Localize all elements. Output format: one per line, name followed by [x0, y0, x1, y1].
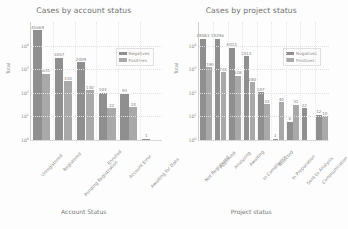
- bar-group: 140: [271, 22, 286, 140]
- bar-positives: 31: [293, 105, 299, 140]
- x-tick-cell: In Preparation: [285, 141, 300, 199]
- x-tick-cell: Rejected: [271, 141, 286, 199]
- legend-swatch-positives-icon: [286, 58, 294, 62]
- legend-swatch-negatives-icon: [286, 52, 294, 56]
- x-tick-cell: Pending Registration: [74, 141, 96, 199]
- gridline-vertical: [315, 22, 316, 140]
- legend-item-positives: Positives: [286, 58, 317, 63]
- bar-positives: 130: [86, 90, 94, 140]
- bar-positives: 10: [322, 116, 328, 140]
- bar-value-label: 24: [131, 102, 136, 107]
- bar-negatives: 22: [302, 108, 308, 140]
- bar-positives: 528: [235, 76, 241, 140]
- bar-positives: 310: [64, 81, 72, 140]
- page-title-project-status: Cases by project status: [168, 6, 336, 15]
- bar-value-label: 1: [274, 133, 277, 138]
- bar-value-label: 130: [86, 85, 94, 90]
- plot-area-account-status: 45669631305731020091301032293241 Negativ…: [30, 22, 162, 141]
- y-axis-tick: 101: [188, 113, 196, 120]
- bar-value-label: 3057: [54, 52, 64, 57]
- x-tick-cell: Unregistered: [30, 141, 52, 199]
- gridline-horizontal: [199, 46, 330, 47]
- gridline-vertical: [213, 22, 214, 140]
- legend-label-positives: Positives: [129, 58, 147, 63]
- bar-value-label: 12: [316, 109, 321, 114]
- x-tick-cell: Enrolled: [96, 141, 118, 199]
- gridline-vertical: [53, 22, 54, 140]
- y-axis-label-project-status: Total: [174, 63, 179, 74]
- x-tick-cell: Not Registered: [198, 141, 213, 199]
- bar-value-label: 2009: [76, 57, 86, 62]
- bar-value-label: 528: [234, 70, 242, 75]
- gridline-vertical: [257, 22, 258, 140]
- bar-group: 22: [300, 22, 315, 140]
- bar-group: 10322: [96, 22, 118, 140]
- bar-positives: 40: [279, 102, 285, 140]
- gridline-vertical: [96, 22, 97, 140]
- legend-item-positives: Positives: [119, 58, 150, 63]
- bar-group: 1: [140, 22, 162, 140]
- bar-positives: 735: [221, 72, 227, 140]
- x-tick-cell: Account Error: [118, 141, 140, 199]
- bar-group: 3513280: [242, 22, 257, 140]
- x-tick-cell: In Compliance: [256, 141, 271, 199]
- gridline-vertical: [118, 22, 119, 140]
- y-axis-tick: 100: [188, 137, 196, 144]
- bar-value-label: 280: [248, 77, 256, 82]
- x-tick-cell: Approved: [212, 141, 227, 199]
- x-axis-label-project-status: Project status: [168, 208, 336, 215]
- y-axis-tick: 103: [21, 66, 29, 73]
- bar-group: 9324: [118, 22, 140, 140]
- bar-value-label: 22: [302, 103, 307, 108]
- legend-item-negatives: Negatives: [119, 51, 150, 56]
- bar-value-label: 22: [109, 103, 114, 108]
- bar-value-label: 103: [99, 87, 107, 92]
- y-axis-tick: 102: [188, 90, 196, 97]
- page-title-account-status: Cases by account status: [0, 6, 168, 15]
- legend-label-positives: Positives: [296, 58, 314, 63]
- gridline-vertical: [300, 22, 301, 140]
- y-axis-tick: 103: [188, 66, 196, 73]
- chart-panel-account-status: Cases by account status Total 4566963130…: [0, 0, 168, 229]
- x-axis-label-account-status: Account Status: [0, 208, 168, 215]
- bar-positives: 33: [264, 104, 270, 140]
- gridline-horizontal: [199, 93, 330, 94]
- bar-groups: 1908311901929673580135283513280107331406…: [199, 22, 330, 140]
- bar-value-label: 107: [257, 87, 265, 92]
- bar-group: 631: [286, 22, 301, 140]
- bar-positives: 1190: [206, 67, 212, 140]
- bar-group: 19296735: [213, 22, 228, 140]
- y-axis-tick: 104: [21, 42, 29, 49]
- y-axis-tick: 102: [21, 90, 29, 97]
- bar-value-label: 33: [264, 99, 269, 104]
- x-tick-cell: Sent to Analysis: [300, 141, 315, 199]
- bar-value-label: 40: [279, 97, 284, 102]
- x-tick-cell: Analyzing: [227, 141, 242, 199]
- x-axis-tick-label: Communication: [320, 155, 348, 184]
- bar-value-label: 31: [293, 99, 298, 104]
- legend-item-negatives: Negatives: [286, 51, 317, 56]
- bar-group: 2009130: [75, 22, 97, 140]
- bar-value-label: 45669: [31, 25, 44, 30]
- legend-swatch-positives-icon: [119, 58, 127, 62]
- bar-negatives: 8013: [229, 48, 235, 140]
- y-axis-tick: 104: [188, 42, 196, 49]
- gridline-horizontal: [199, 116, 330, 117]
- bar-group: 3057310: [53, 22, 75, 140]
- y-axis-tick: 101: [21, 113, 29, 120]
- bar-value-label: 10: [322, 111, 327, 116]
- bar-negatives: 2009: [77, 62, 85, 140]
- bar-positives: 280: [250, 82, 256, 140]
- gridline-vertical: [271, 22, 272, 140]
- bar-group: 45669631: [31, 22, 53, 140]
- bar-positives: 631: [42, 74, 50, 140]
- bar-negatives: 19083: [200, 39, 206, 140]
- legend-account-status: Negatives Positives: [116, 48, 154, 66]
- x-tick-cell: Awaiting for Data: [140, 141, 162, 199]
- bar-value-label: 19083: [196, 33, 209, 38]
- gridline-horizontal: [199, 69, 330, 70]
- gridline-vertical: [286, 22, 287, 140]
- x-axis-ticks-project-status: Not RegisteredApprovedAnalyzingAwaitingI…: [198, 141, 330, 199]
- bar-value-label: 1: [145, 133, 148, 138]
